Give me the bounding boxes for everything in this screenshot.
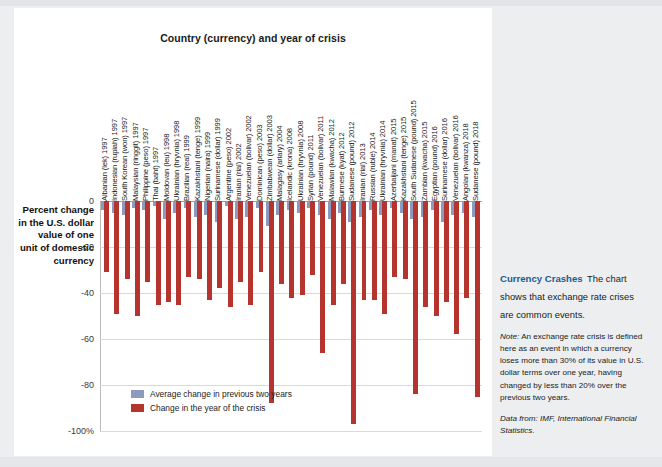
caption-note-label: Note: [500,332,519,341]
bar-change-in-crisis-year [197,201,202,279]
page-top-rule [0,0,662,6]
bar-change-in-crisis-year [475,201,480,397]
bar-change-in-crisis-year [444,201,449,302]
bar-change-in-crisis-year [207,201,212,300]
bar-group [441,201,451,431]
bar-change-in-crisis-year [341,201,346,284]
bar-group [307,201,317,431]
x-axis-label: South Korean (won) 1997 [120,117,129,201]
bar-group [379,201,389,431]
page-background: Country (currency) and year of crisis Pe… [0,0,662,467]
bar-group [420,201,430,431]
y-axis-caption: Percent change in the U.S. dollar value … [18,204,94,267]
y-tick-label: -60 [81,334,94,344]
x-axis-label: Malagasy (ariary) 2004 [275,126,284,201]
x-axis-label: Iranian (rial) 2002 [234,143,243,201]
x-axis-label: Ukrainian (hryvnia) 1998 [172,121,181,201]
x-axis-label: Venezuelan (bolivar) 2011 [316,116,325,201]
bar-group [431,201,441,431]
bar-change-in-crisis-year [269,201,274,403]
caption-note-text: An exchange rate crisis is defined here … [500,332,644,402]
x-axis-label: Azerbaijani (manat) 2015 [389,119,398,201]
x-axis-label: Zimbabwean (dollar) 2003 [265,115,274,201]
bar-change-in-crisis-year [156,201,161,305]
bar-change-in-crisis-year [310,201,315,275]
bar-group [451,201,461,431]
legend-swatch [131,390,144,398]
bar-change-in-crisis-year [248,201,253,305]
x-axis-label: Ukrainian (hryvnia) 2014 [378,121,387,201]
bar-change-in-crisis-year [464,201,469,298]
legend-swatch [131,404,144,412]
bar-change-in-crisis-year [320,201,325,353]
bar-change-in-crisis-year [392,201,397,277]
x-axis-label: Sudanese (pound) 2012 [347,122,356,201]
x-axis-label: Sudanese (pound) 2018 [471,122,480,201]
bar-change-in-crisis-year [166,201,171,302]
x-axis-label: Venezuelan (bolivar) 2016 [451,115,460,201]
bar-change-in-crisis-year [403,201,408,279]
bar-change-in-crisis-year [145,201,150,282]
bar-change-in-crisis-year [372,201,377,300]
bar-change-in-crisis-year [434,201,439,316]
x-axis-label: Kazakhstani (tenge) 1999 [193,117,202,201]
caption-lead-paragraph: Currency Crashes The chart shows that ex… [500,268,650,322]
x-axis-label: Philippine (peso) 1997 [141,128,150,201]
x-axis-label: Kazakhstani (tenge) 2015 [399,117,408,201]
bar-change-in-crisis-year [413,201,418,394]
bar-change-in-crisis-year [423,201,428,307]
x-axis-label: Dominican (peso) 2003 [255,125,264,201]
bar-change-in-crisis-year [331,201,336,305]
x-axis-label: South Sudanese (pound) 2015 [409,100,418,201]
x-axis-label: Nigerian (naira) 1999 [203,132,212,201]
bar-change-in-crisis-year [289,201,294,298]
chart-legend: Average change in previous two yearsChan… [131,389,292,416]
bar-group [297,201,307,431]
x-axis-label: Indonesian (rupiah) 1997 [110,119,119,201]
bar-change-in-crisis-year [125,201,130,279]
x-axis-label: Albanian (lek) 1997 [100,137,109,201]
x-axis-label: Venezuelan (bolivar) 2002 [244,115,253,201]
y-tick-label: -40 [81,288,94,298]
x-axis-labels: Albanian (lek) 1997Indonesian (rupiah) 1… [101,8,483,201]
x-axis-label: Syrian (pound) 2011 [306,135,315,201]
bar-group [111,201,121,431]
bar-change-in-crisis-year [186,201,191,277]
bar-change-in-crisis-year [176,201,181,305]
x-axis-label: Malaysian (ringgit) 1997 [131,122,140,201]
bar-change-in-crisis-year [104,201,109,272]
bar-group [348,201,358,431]
bar-change-in-crisis-year [228,201,233,307]
x-axis-label: Ukrainian (hryvnia) 2008 [296,121,305,201]
x-axis-label: Argentine (peso) 2002 [224,128,233,201]
bar-change-in-crisis-year [114,201,119,314]
y-tick-label: -100% [68,426,94,436]
bar-change-in-crisis-year [382,201,387,314]
page-bottom-rule [0,457,662,467]
bar-change-in-crisis-year [454,201,459,334]
bar-group [389,201,399,431]
x-axis-label: Surinamese (dollar) 1999 [213,118,222,201]
x-axis-label: Russian (ruble) 2014 [368,133,377,202]
bar-group [317,201,327,431]
caption-heading: Currency Crashes [500,273,583,284]
caption-column: Currency Crashes The chart shows that ex… [500,268,650,436]
bar-group [472,201,482,431]
gridline--100 [100,431,482,432]
x-axis-label: Zambian (kwacha) 2015 [420,122,429,201]
x-axis-label: Thai (baht) 1997 [151,147,160,201]
x-axis-label: Malawian (kwacha) 2012 [327,119,336,201]
bar-change-in-crisis-year [238,201,243,282]
bar-change-in-crisis-year [351,201,356,424]
bar-group [328,201,338,431]
y-tick-label: 0 [89,196,94,206]
bar-group [369,201,379,431]
bar-change-in-crisis-year [259,201,264,272]
legend-item: Change in the year of the crisis [131,403,292,414]
bar-group [461,201,471,431]
legend-label: Average change in previous two years [150,389,292,400]
legend-label: Change in the year of the crisis [150,403,265,414]
bar-group [400,201,410,431]
caption-note: Note: An exchange rate crisis is defined… [500,331,650,404]
caption-source: Data from: IMF, International Financial … [500,413,650,436]
